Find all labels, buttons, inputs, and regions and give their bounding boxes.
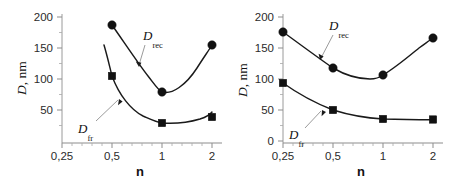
x-tick-label: 1 [380, 150, 386, 162]
series-annotation-subscript: fr [298, 139, 304, 149]
data-point-marker [158, 119, 165, 126]
x-ticks-left [62, 143, 212, 148]
y-axis-title-unit: , nm [14, 61, 29, 86]
data-point-marker [329, 64, 337, 72]
series-annotation-subscript: fr [87, 133, 93, 143]
y-tick-label: 150 [34, 42, 53, 54]
y-tick-label: 200 [34, 11, 53, 23]
y-tick-label: 150 [255, 42, 274, 54]
x-tick-label: 2 [430, 150, 436, 162]
chart-panel-left: 200 150 100 50 0,25 0,5 1 2 n D, nm [0, 0, 226, 182]
series-annotation-d-fr-left: Dfr [77, 121, 93, 143]
x-axis-title: n [136, 164, 144, 179]
y-tick-label: 200 [255, 11, 274, 23]
series-curve-d-fr-left [104, 45, 212, 123]
leader-line-d-rec-right [321, 35, 333, 58]
y-axis-title-symbol: D [14, 85, 29, 96]
series-annotation-d-fr-right: Dfr [288, 127, 304, 149]
x-tick-label: 0,25 [51, 150, 73, 162]
leader-arrow-d-fr-right [322, 110, 326, 116]
series-annotation-subscript: rec [338, 30, 349, 40]
series-annotation-symbol: D [328, 18, 339, 33]
series-annotation-symbol: D [288, 127, 299, 142]
x-tick-label: 0,25 [272, 150, 294, 162]
svg-text:D, nm: D, nm [235, 63, 250, 98]
series-annotation-d-rec-right: Drec [328, 18, 349, 40]
x-axis-title: n [357, 164, 365, 179]
series-annotation-subscript: rec [152, 40, 163, 50]
leader-line-d-rec-left [139, 45, 145, 65]
series-curve-d-fr-right [283, 83, 433, 120]
y-tick-label: 100 [34, 73, 53, 85]
data-point-marker [279, 79, 286, 86]
data-point-marker [158, 88, 166, 96]
data-point-marker [108, 21, 116, 29]
data-point-marker [108, 72, 115, 79]
y-tick-label: 0 [268, 135, 274, 147]
y-ticks-left [57, 17, 62, 126]
y-axis-title-symbol: D [235, 87, 250, 98]
series-curve-d-rec-right [283, 32, 433, 79]
svg-text:D, nm: D, nm [14, 61, 29, 96]
series-annotation-d-rec-left: Drec [142, 28, 163, 50]
series-curve-d-rec-left [112, 25, 212, 93]
x-tick-label: 0,5 [104, 150, 120, 162]
y-axis-title: D, nm [14, 61, 29, 96]
data-point-marker [379, 115, 386, 122]
y-axis-title-unit: , nm [235, 63, 250, 88]
data-point-marker [429, 116, 436, 123]
x-tick-label: 2 [209, 150, 215, 162]
figure-container: 200 150 100 50 0,25 0,5 1 2 n D, nm [0, 0, 451, 182]
series-annotation-symbol: D [77, 121, 88, 136]
y-tick-label: 50 [261, 104, 274, 116]
x-tick-label: 1 [159, 150, 165, 162]
data-point-marker [208, 113, 215, 120]
y-tick-label: 50 [40, 104, 53, 116]
y-axis-title: D, nm [235, 63, 250, 98]
leader-arrow-d-fr-left [118, 99, 123, 105]
leader-line-d-fr-right [305, 111, 321, 128]
x-tick-label: 0,5 [325, 150, 341, 162]
data-point-marker [379, 71, 387, 79]
data-point-marker [429, 34, 437, 42]
data-point-marker [329, 106, 336, 113]
data-point-marker [208, 41, 216, 49]
leader-line-d-fr-left [96, 100, 118, 121]
y-tick-label: 100 [255, 73, 274, 85]
data-point-marker [279, 28, 287, 36]
x-ticks-right [283, 143, 433, 148]
series-annotation-symbol: D [142, 28, 153, 43]
chart-panel-right: 200 150 100 50 0 0,25 0,5 1 2 n D, nm [225, 0, 451, 182]
